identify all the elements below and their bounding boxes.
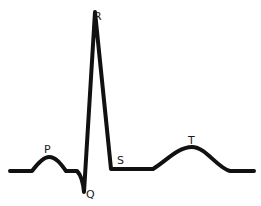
- label-q-point: Q: [86, 188, 95, 201]
- ecg-waveform: [10, 12, 254, 192]
- label-t-wave: T: [187, 134, 195, 147]
- label-r-peak: R: [94, 10, 102, 23]
- label-s-point: S: [117, 154, 124, 167]
- label-p-wave: P: [44, 143, 51, 156]
- ecg-diagram: P Q R S T: [0, 0, 261, 206]
